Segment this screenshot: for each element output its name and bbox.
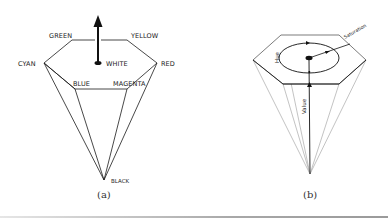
- label-hue: Hue: [274, 51, 280, 63]
- diagram-canvas: GREEN YELLOW CYAN RED WHITE BLUE MAGENTA…: [0, 0, 388, 218]
- label-yellow: YELLOW: [130, 32, 159, 40]
- axis-tick-dot: [308, 71, 310, 73]
- label-blue: BLUE: [73, 80, 90, 88]
- label-black: BLACK: [111, 178, 129, 184]
- caption-a: (a): [97, 189, 111, 200]
- label-green: GREEN: [49, 32, 72, 40]
- hsv-hexcone-figure: GREEN YELLOW CYAN RED WHITE BLUE MAGENTA…: [0, 0, 388, 218]
- label-saturation: Saturation: [343, 23, 367, 40]
- caption-b: (b): [303, 189, 317, 200]
- bottom-divider: [0, 216, 388, 218]
- label-red: RED: [161, 60, 175, 68]
- white-point-dot: [95, 61, 102, 65]
- label-white: WHITE: [106, 60, 128, 68]
- label-cyan: CYAN: [18, 60, 36, 68]
- label-magenta: MAGENTA: [113, 80, 146, 88]
- figure-a: GREEN YELLOW CYAN RED WHITE BLUE MAGENTA…: [18, 15, 175, 200]
- label-value: Value: [301, 98, 307, 114]
- figure-b: Hue Saturation Value (b): [253, 23, 367, 200]
